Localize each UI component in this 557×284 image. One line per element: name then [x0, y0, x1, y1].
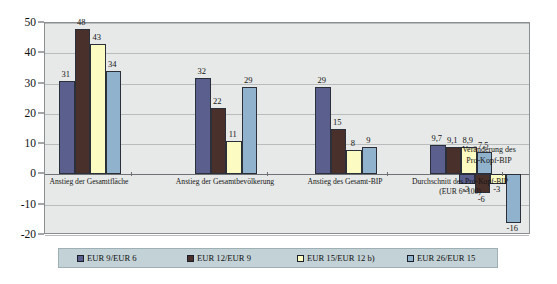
bar-value-label: 11: [229, 129, 237, 139]
legend-item[interactable]: EUR 26/EUR 15: [407, 253, 475, 263]
legend-label: EUR 15/EUR 12 b): [307, 253, 375, 263]
y-axis-tick-label: -20: [21, 228, 36, 240]
x-axis-tick-mark: [267, 172, 268, 176]
bar-value-label: 29: [318, 75, 327, 85]
bar: [346, 150, 362, 174]
bar-value-label: 8: [351, 138, 355, 148]
legend-swatch-icon: [77, 255, 84, 262]
bar: [90, 44, 106, 174]
y-axis-tick-label: -10: [21, 198, 36, 210]
zero-line: [45, 174, 529, 175]
bar: [446, 147, 462, 175]
bar-value-label: 48: [77, 17, 86, 27]
gridline: [45, 53, 529, 54]
y-axis-tick-label: 50: [25, 16, 37, 28]
bar-value-label: -16: [507, 223, 518, 233]
bar: [331, 129, 347, 174]
y-axis-tick-label: 20: [25, 107, 37, 119]
bar: [106, 71, 122, 174]
bar: [362, 147, 378, 174]
bar-value-label: 15: [333, 117, 342, 127]
x-axis-category-label: Anstieg der Gesamtfläche: [50, 177, 129, 186]
y-axis-tick-label: 30: [25, 77, 37, 89]
bar: [242, 87, 258, 175]
category-label-line: Anstieg der Gesamtbevölkerung: [176, 177, 274, 186]
gridline: [45, 23, 529, 24]
legend-swatch-icon: [297, 255, 304, 262]
bar: [430, 145, 446, 174]
bar-value-label: 43: [93, 32, 102, 42]
bar-value-label: 8,9: [462, 135, 473, 145]
plot-inner: [45, 23, 529, 233]
legend-item[interactable]: EUR 15/EUR 12 b): [297, 253, 375, 263]
category-label-line: Anstieg des Gesamt-BIP: [307, 177, 382, 186]
bar-value-label: 29: [244, 75, 253, 85]
plot-area: [44, 22, 530, 234]
x-axis-category-label: Durchschnitt des Pro-Kopf-BIP(EUR 6=100): [412, 177, 508, 196]
bar-chart: 50403020100-10-20 3132299,7-34822159,1-6…: [0, 0, 557, 284]
legend-item[interactable]: EUR 12/EUR 9: [187, 253, 251, 263]
x-axis-tick-mark: [387, 172, 388, 176]
bar-value-label: 22: [213, 96, 222, 106]
annotation-line: Veränderung des: [462, 145, 516, 155]
category-label-line: Durchschnitt des Pro-Kopf-BIP: [412, 177, 508, 186]
bar: [226, 141, 242, 174]
y-axis-tick-label: 40: [25, 46, 37, 58]
legend-label: EUR 26/EUR 15: [417, 253, 475, 263]
legend-item[interactable]: EUR 9/EUR 6: [77, 253, 137, 263]
bar-value-label: 9,7: [431, 133, 442, 143]
x-axis-tick-mark: [502, 172, 503, 176]
bar: [59, 81, 75, 175]
legend-label: EUR 9/EUR 6: [87, 253, 137, 263]
bar-value-label: 34: [108, 59, 117, 69]
chart-legend: EUR 9/EUR 6EUR 12/EUR 9EUR 15/EUR 12 b)E…: [58, 248, 498, 268]
x-axis-tick-mark: [131, 172, 132, 176]
bar: [211, 108, 227, 175]
gridline: [45, 205, 529, 206]
x-axis-category-label: Anstieg des Gesamt-BIP: [307, 177, 382, 186]
y-axis-tick-label: 10: [25, 137, 37, 149]
bar-value-label: 31: [62, 69, 71, 79]
bar: [195, 78, 211, 175]
y-axis: 50403020100-10-20: [0, 0, 44, 284]
gridline: [45, 235, 529, 236]
category-label-line: (EUR 6=100): [412, 187, 508, 196]
chart-annotation: Veränderung desPro-Kopf-BIP: [462, 145, 516, 166]
bar: [75, 29, 91, 174]
bar: [315, 87, 331, 175]
category-label-line: Anstieg der Gesamtfläche: [50, 177, 129, 186]
annotation-line: Pro-Kopf-BIP: [462, 156, 516, 166]
legend-swatch-icon: [407, 255, 414, 262]
bar-value-label: 9,1: [447, 135, 458, 145]
x-axis-category-label: Anstieg der Gesamtbevölkerung: [176, 177, 274, 186]
bar-value-label: 9: [366, 135, 370, 145]
legend-swatch-icon: [187, 255, 194, 262]
bar-value-label: 32: [198, 66, 207, 76]
y-axis-tick-label: 0: [30, 167, 36, 179]
legend-label: EUR 12/EUR 9: [197, 253, 251, 263]
